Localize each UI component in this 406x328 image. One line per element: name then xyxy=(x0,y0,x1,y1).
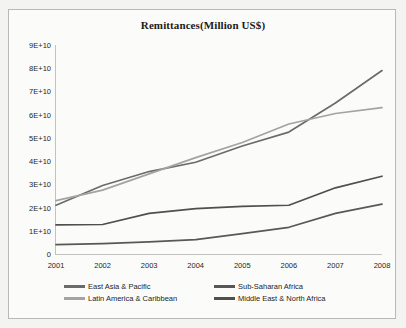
x-axis-tick-label: 2007 xyxy=(327,261,344,270)
x-axis-tick-label: 2008 xyxy=(374,261,391,270)
chart-figure: Remittances(Million US$) 01E+102E+103E+1… xyxy=(0,0,406,328)
legend-swatch-icon xyxy=(214,297,235,300)
y-axis-tick-label: 3E+10 xyxy=(29,180,51,189)
legend-item-middle-east-north-africa: Middle East & North Africa xyxy=(214,294,342,303)
y-axis-tick-label: 7E+10 xyxy=(29,87,51,96)
y-axis-tick-label: 8E+10 xyxy=(29,64,51,73)
legend-item-latin-america-caribbean: Latin America & Caribbean xyxy=(64,294,192,303)
y-axis-tick-label: 9E+10 xyxy=(29,41,51,50)
y-axis-tick-label: 2E+10 xyxy=(29,203,51,212)
legend-label: East Asia & Pacific xyxy=(88,282,151,291)
legend-swatch-icon xyxy=(64,285,85,288)
y-axis-tick-label: 5E+10 xyxy=(29,133,51,142)
y-axis-tick-label: 1E+10 xyxy=(29,226,51,235)
x-axis-tick-label: 2004 xyxy=(187,261,204,270)
legend-label: Sub-Saharan Africa xyxy=(238,282,303,291)
legend-row-1: East Asia & Pacific Sub-Saharan Africa xyxy=(9,282,397,291)
plot-wrapper: 01E+102E+103E+104E+105E+106E+107E+108E+1… xyxy=(9,10,397,320)
series-lines xyxy=(56,45,382,254)
x-axis-tick-label: 2005 xyxy=(234,261,251,270)
y-axis-tick-label: 4E+10 xyxy=(29,157,51,166)
legend-label: Latin America & Caribbean xyxy=(88,294,177,303)
legend-swatch-icon xyxy=(214,285,235,288)
series-line xyxy=(56,71,382,206)
legend-label: Middle East & North Africa xyxy=(238,294,326,303)
legend-swatch-icon xyxy=(64,297,85,300)
chart-frame: Remittances(Million US$) 01E+102E+103E+1… xyxy=(8,9,396,319)
x-axis-tick-label: 2002 xyxy=(94,261,111,270)
legend-item-sub-saharan-africa: Sub-Saharan Africa xyxy=(214,282,342,291)
x-axis-tick-label: 2001 xyxy=(48,261,65,270)
x-axis-tick-label: 2006 xyxy=(281,261,298,270)
y-axis-tick-label: 6E+10 xyxy=(29,110,51,119)
y-axis-tick-label: 0 xyxy=(47,250,51,259)
legend-item-east-asia-pacific: East Asia & Pacific xyxy=(64,282,192,291)
chart-legend: East Asia & Pacific Sub-Saharan Africa L… xyxy=(9,282,397,306)
plot-area: 01E+102E+103E+104E+105E+106E+107E+108E+1… xyxy=(55,45,382,255)
x-axis-tick-label: 2003 xyxy=(141,261,158,270)
legend-row-2: Latin America & Caribbean Middle East & … xyxy=(9,294,397,303)
series-line xyxy=(56,176,382,225)
